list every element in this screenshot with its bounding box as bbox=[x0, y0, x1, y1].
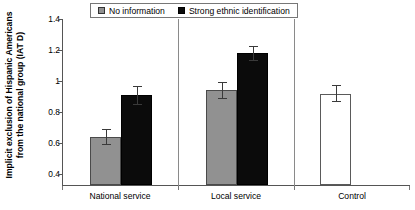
plot-area: National service Local service Control bbox=[62, 19, 410, 186]
bar-chart-figure: Implicit exclusion of Hispanic Americans… bbox=[0, 0, 415, 210]
y-axis-title: Implicit exclusion of Hispanic Americans… bbox=[4, 0, 26, 190]
legend-item-no-information: No information bbox=[98, 6, 165, 16]
legend: No information Strong ethnic identificat… bbox=[90, 3, 298, 18]
y-tick-mark bbox=[58, 19, 62, 20]
y-axis-tick-labels: 1.4 1.2 1 0.8 0.6 0.4 bbox=[30, 0, 60, 210]
x-tick-mark bbox=[62, 186, 63, 190]
error-bar-cap-bottom bbox=[133, 104, 142, 105]
category-separator bbox=[178, 19, 179, 186]
x-category-label-local-service: Local service bbox=[184, 191, 288, 201]
error-bar-cap-top bbox=[249, 46, 258, 47]
error-bar-control bbox=[336, 85, 337, 102]
y-tick-mark bbox=[58, 143, 62, 144]
legend-label: Strong ethnic identification bbox=[189, 6, 290, 16]
y-tick-mark bbox=[58, 81, 62, 82]
black-square-icon bbox=[178, 7, 185, 14]
y-tick-label: 1.2 bbox=[34, 46, 60, 54]
error-bar-cap-bottom bbox=[218, 98, 227, 99]
y-tick-label: 0.6 bbox=[34, 139, 60, 147]
error-bar-cap-top bbox=[102, 129, 111, 130]
error-bar-cap-top bbox=[332, 85, 341, 86]
bar-local-service-strong-ethnic-identification bbox=[237, 53, 268, 185]
x-axis-line bbox=[62, 185, 410, 186]
error-bar-national-service-strong-ethnic-identification bbox=[137, 86, 138, 104]
x-tick-mark bbox=[178, 186, 179, 190]
y-tick-label: 1.4 bbox=[34, 15, 60, 23]
category-separator bbox=[294, 19, 295, 186]
error-bar-cap-top bbox=[133, 86, 142, 87]
x-tick-mark bbox=[294, 186, 295, 190]
legend-item-strong-ethnic-identification: Strong ethnic identification bbox=[178, 6, 290, 16]
error-bar-local-service-no-information bbox=[222, 82, 223, 99]
y-axis-title-line-2: from the national group (IAT D) bbox=[15, 0, 26, 190]
y-tick-mark bbox=[58, 112, 62, 113]
error-bar-cap-bottom bbox=[102, 144, 111, 145]
y-axis-title-line-1: Implicit exclusion of Hispanic Americans bbox=[4, 12, 14, 179]
bar-control bbox=[320, 94, 351, 185]
y-tick-mark bbox=[58, 174, 62, 175]
y-tick-mark bbox=[58, 50, 62, 51]
y-tick-label: 1 bbox=[34, 77, 60, 85]
error-bar-cap-top bbox=[218, 82, 227, 83]
y-tick-label: 0.8 bbox=[34, 108, 60, 116]
x-category-label-national-service: National service bbox=[68, 191, 172, 201]
error-bar-cap-bottom bbox=[249, 60, 258, 61]
y-tick-label: 0.4 bbox=[34, 170, 60, 178]
y-axis-title-container: Implicit exclusion of Hispanic Americans… bbox=[0, 0, 30, 195]
gray-square-icon bbox=[98, 7, 105, 14]
bar-national-service-strong-ethnic-identification bbox=[121, 95, 152, 185]
y-axis-line bbox=[62, 19, 63, 186]
legend-label: No information bbox=[109, 6, 165, 16]
x-tick-mark bbox=[409, 186, 410, 190]
error-bar-cap-bottom bbox=[332, 101, 341, 102]
x-category-label-control: Control bbox=[300, 191, 404, 201]
bar-local-service-no-information bbox=[206, 90, 237, 185]
error-bar-national-service-no-information bbox=[106, 129, 107, 146]
error-bar-local-service-strong-ethnic-identification bbox=[253, 46, 254, 61]
